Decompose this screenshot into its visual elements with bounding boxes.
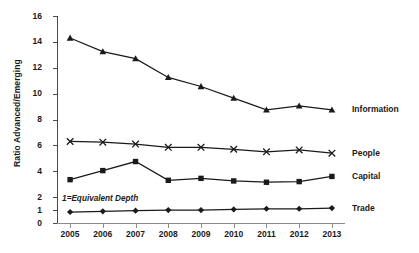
series-trade	[67, 205, 335, 215]
line-chart: Ratio Advanced/Emerging 01246810121416 2…	[0, 0, 419, 253]
x-tick-2008	[168, 223, 169, 228]
marker-information-2012	[296, 103, 303, 109]
series-label-capital: Capital	[352, 172, 380, 181]
marker-information-2008	[165, 74, 172, 80]
x-tick-2010	[234, 223, 235, 228]
y-tick-label-16: 16	[2, 12, 42, 21]
marker-capital-2008	[166, 178, 171, 183]
y-tick-label-14: 14	[2, 37, 42, 46]
marker-information-2005	[67, 35, 74, 41]
y-tick-0	[53, 223, 57, 224]
marker-capital-2012	[296, 179, 301, 184]
y-tick-label-10: 10	[2, 89, 42, 98]
y-tick-label-4: 4	[2, 167, 42, 176]
x-tick-label-2013: 2013	[310, 230, 354, 239]
x-tick-2007	[136, 223, 137, 228]
y-tick-label-1: 1	[2, 206, 42, 215]
marker-trade-2012	[296, 206, 302, 212]
x-tick-2006	[103, 223, 104, 228]
marker-trade-2008	[165, 207, 171, 213]
marker-capital-2013	[329, 174, 334, 179]
marker-trade-2007	[132, 208, 138, 214]
y-tick-label-6: 6	[2, 141, 42, 150]
marker-trade-2006	[100, 208, 106, 214]
marker-trade-2009	[198, 207, 204, 213]
y-tick-label-12: 12	[2, 63, 42, 72]
x-tick-2013	[332, 223, 333, 228]
marker-capital-2010	[231, 178, 236, 183]
series-label-information: Information	[352, 105, 399, 114]
series-label-trade: Trade	[352, 204, 375, 213]
marker-capital-2009	[198, 176, 203, 181]
series-label-people: People	[352, 149, 380, 158]
y-tick-label-0: 0	[2, 219, 42, 228]
marker-capital-2005	[67, 177, 72, 182]
series-information	[67, 35, 336, 113]
marker-capital-2006	[100, 168, 105, 173]
plot-area: 01246810121416 2005200620072008200920102…	[57, 16, 345, 223]
x-tick-2009	[201, 223, 202, 228]
x-tick-2012	[299, 223, 300, 228]
marker-trade-2013	[329, 205, 335, 211]
series-people	[67, 138, 335, 156]
series-layer	[57, 16, 345, 223]
series-capital	[67, 159, 334, 185]
marker-trade-2010	[231, 206, 237, 212]
y-tick-label-8: 8	[2, 115, 42, 124]
marker-trade-2005	[67, 209, 73, 215]
marker-capital-2007	[133, 159, 138, 164]
x-tick-2011	[266, 223, 267, 228]
y-axis-title: Ratio Advanced/Emerging	[12, 38, 22, 188]
chart-annotation-0: 1=Equivalent Depth	[62, 195, 138, 203]
series-line-information	[70, 38, 332, 110]
marker-capital-2011	[264, 180, 269, 185]
y-tick-label-2: 2	[2, 193, 42, 202]
marker-trade-2011	[263, 206, 269, 212]
x-tick-2005	[70, 223, 71, 228]
